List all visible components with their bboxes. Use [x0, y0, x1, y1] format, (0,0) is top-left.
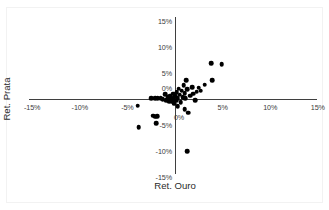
data-point [186, 110, 191, 115]
data-point [137, 125, 142, 130]
data-point [184, 78, 189, 83]
data-point [176, 104, 181, 109]
data-point [178, 100, 183, 105]
data-point [136, 103, 141, 108]
y-tick-label: 5% [150, 68, 172, 77]
scatter-plot: -15%-10%-5%0%5%10%15% -15%-10%-5%5%10%15… [0, 0, 329, 210]
y-tick-label: 10% [150, 42, 172, 51]
data-point [209, 61, 214, 66]
data-point [155, 114, 160, 119]
x-tick-label: 0% [174, 113, 184, 122]
data-point [210, 78, 215, 83]
x-tick-label: -15% [24, 103, 40, 112]
data-point [193, 98, 198, 103]
y-axis-title: Ret. Prata [1, 77, 12, 120]
data-point [219, 62, 224, 67]
x-axis-title: Ret. Ouro [154, 180, 196, 191]
y-tick-label: 15% [150, 16, 172, 25]
chart-screenshot: -15%-10%-5%0%5%10%15% -15%-10%-5%5%10%15… [0, 0, 329, 210]
y-tick-label: -10% [150, 147, 172, 156]
x-tick-label: 5% [217, 103, 227, 112]
y-tick-label: 0% [152, 84, 172, 93]
x-tick-label: -5% [121, 103, 133, 112]
data-point [185, 149, 190, 154]
x-tick-label: -10% [72, 103, 88, 112]
data-point [154, 121, 159, 126]
x-tick-label: 15% [311, 103, 325, 112]
x-tick-label: 10% [263, 103, 277, 112]
data-point [190, 85, 195, 90]
data-point [202, 83, 207, 88]
data-point [198, 88, 203, 93]
